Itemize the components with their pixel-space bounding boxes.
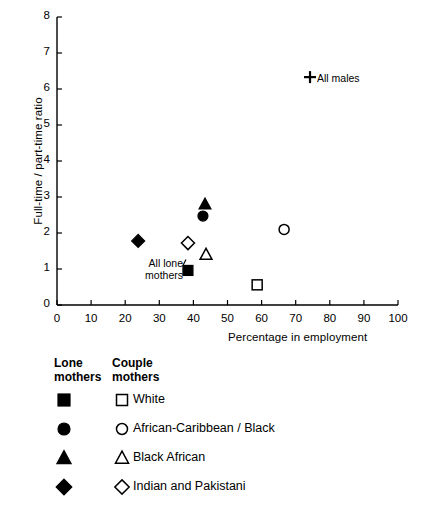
x-tick-label: 90 [349,312,379,324]
y-tick-label: 5 [30,117,50,129]
data-point-lone-indian-and-pakistani [132,234,145,247]
data-point-couple-indian-and-pakistani [181,237,194,250]
x-tick-label: 10 [76,312,106,324]
x-tick-label: 70 [281,312,311,324]
legend: Lone mothers Couple mothers WhiteAfrican… [0,355,429,515]
y-tick-label: 2 [30,225,50,237]
data-point-all-lone-mothers [183,265,193,275]
legend-marker-couple-open-circle [112,419,132,439]
x-tick-label: 50 [213,312,243,324]
legend-marker-lone-filled-triangle [54,448,74,468]
legend-glyph-open-circle [117,424,128,435]
legend-marker-couple-open-diamond [112,477,132,497]
y-tick-label: 0 [30,297,50,309]
x-tick-label: 60 [247,312,277,324]
y-tick-label: 1 [30,261,50,273]
data-point-couple-african-caribbean-black [279,224,289,234]
legend-glyph-filled-diamond [56,479,72,495]
x-tick-label: 0 [42,312,72,324]
legend-glyph-filled-triangle [57,451,71,464]
legend-heading-couple-mothers: Couple mothers [112,356,159,384]
data-point-lone-black-african [199,198,211,209]
figure: Percentage in employment Full-time / par… [0,0,429,515]
legend-marker-lone-filled-square [54,390,74,410]
data-point-couple-white [252,280,262,290]
legend-marker-lone-filled-circle [54,419,74,439]
y-tick-label: 7 [30,45,50,57]
legend-row[interactable]: African-Caribbean / Black [0,416,429,445]
x-tick-label: 30 [144,312,174,324]
legend-heading-lone-mothers: Lone mothers [54,356,101,384]
legend-label: White [133,391,165,407]
all-lone-mothers-label-line1: All lone [149,257,183,269]
data-point-couple-black-african [200,248,212,259]
legend-marker-lone-filled-diamond [54,477,74,497]
legend-marker-couple-open-triangle [112,448,132,468]
legend-label: Black African [133,449,205,465]
legend-glyph-filled-square [58,394,70,406]
legend-row[interactable]: White [0,387,429,416]
legend-glyph-open-square [117,395,128,406]
data-point-all-males [304,71,316,83]
legend-marker-couple-open-square [112,390,132,410]
axes-group [57,17,398,305]
y-tick-label: 8 [30,9,50,21]
legend-label: African-Caribbean / Black [133,420,275,436]
data-point-lone-african-caribbean-black [198,211,208,221]
all-lone-mothers-label-line2: mothers [145,269,183,281]
x-tick-label: 20 [110,312,140,324]
legend-glyph-open-diamond [115,480,129,494]
y-tick-label: 4 [30,153,50,165]
legend-glyph-open-triangle [115,451,128,463]
annotation-leader-line [183,259,186,265]
all-males-label: All males [317,73,360,85]
x-tick-label: 100 [383,312,413,324]
legend-label: Indian and Pakistani [133,478,246,494]
y-tick-label: 3 [30,189,50,201]
x-tick-label: 40 [178,312,208,324]
legend-row[interactable]: Black African [0,445,429,474]
x-tick-label: 80 [315,312,345,324]
legend-glyph-filled-circle [58,423,70,435]
legend-row[interactable]: Indian and Pakistani [0,474,429,503]
all-lone-mothers-label: All lonemothers [131,258,183,281]
x-axis-title: Percentage in employment [228,331,367,343]
scatter-plot: Percentage in employment Full-time / par… [0,0,429,345]
y-tick-label: 6 [30,81,50,93]
plot-canvas [0,0,429,345]
all-lone-mothers-leader [183,259,186,265]
